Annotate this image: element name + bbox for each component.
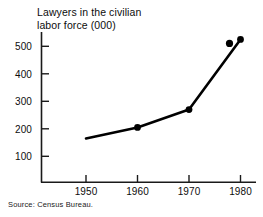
- y-axis-tick-label-400: 400: [2, 68, 32, 79]
- data-point-1970: [237, 36, 244, 43]
- chart-figure: Lawyers in the civilian labor force (000…: [0, 0, 263, 217]
- line-chart-plot: [0, 0, 263, 217]
- source-note: Source: Census Bureau.: [8, 200, 93, 209]
- data-line-lawyers: [86, 39, 241, 138]
- data-point-1980: [226, 40, 233, 47]
- y-axis-tick-label-500: 500: [2, 41, 32, 52]
- data-point-1950: [134, 124, 141, 131]
- data-point-markers: [134, 36, 244, 131]
- x-axis-tick-label-1970: 1970: [169, 186, 209, 197]
- x-axis-tick-label-1960: 1960: [118, 186, 158, 197]
- x-axis-tick-label-1980: 1980: [221, 186, 261, 197]
- x-axis-tick-label-1950: 1950: [66, 186, 106, 197]
- data-point-1960: [186, 106, 193, 113]
- y-axis-tick-label-200: 200: [2, 123, 32, 134]
- x-axis-ticks: [86, 175, 241, 182]
- y-axis-tick-label-300: 300: [2, 96, 32, 107]
- y-axis-ticks: [42, 46, 49, 156]
- y-axis-tick-label-100: 100: [2, 151, 32, 162]
